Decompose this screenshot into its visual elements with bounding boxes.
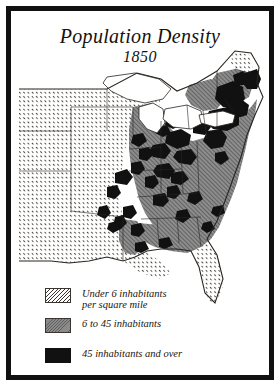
population-density-map [11, 11, 269, 311]
map-legend: Under 6 inhabitants per square mile 6 to… [45, 287, 255, 375]
legend-item-6-to-45: 6 to 45 inhabitants [45, 317, 255, 335]
legend-swatch-under-6 [45, 288, 71, 303]
poster-frame: Population Density 1850 Under 6 inhabita… [6, 6, 274, 380]
legend-label-under-6: Under 6 inhabitants per square mile [82, 287, 167, 310]
map-svg [11, 11, 269, 311]
legend-label-45-and-over: 45 inhabitants and over [82, 347, 182, 359]
map-poster: Population Density 1850 Under 6 inhabita… [0, 0, 280, 386]
legend-label-6-to-45: 6 to 45 inhabitants [82, 317, 161, 329]
legend-swatch-45-and-over [45, 348, 71, 363]
legend-swatch-6-to-45 [45, 318, 71, 333]
legend-item-45-and-over: 45 inhabitants and over [45, 347, 255, 365]
poster-plate: Population Density 1850 Under 6 inhabita… [11, 11, 269, 375]
legend-item-under-6: Under 6 inhabitants per square mile [45, 287, 255, 305]
